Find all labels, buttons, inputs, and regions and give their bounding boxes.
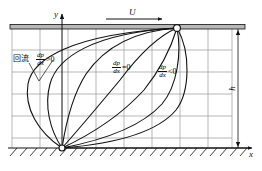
diagram-canvas: [0, 0, 262, 171]
dp-dx-fraction: dp dx: [36, 52, 45, 68]
lower-wall: [8, 148, 250, 156]
boundary-layer-diagram: y x U h 回流 dp dx >0 dp dx =0 dp dx <0: [0, 0, 262, 171]
dx-denominator: dx: [159, 71, 166, 79]
profile-backflow-outer: [27, 28, 177, 148]
x-axis-label: x: [249, 150, 253, 159]
wall-contact-node: [59, 145, 65, 151]
pressure-gradient-negative-annotation: dp dx <0: [158, 64, 177, 80]
dx-denominator: dx: [37, 59, 44, 67]
wall-hatching: [10, 148, 247, 156]
freestream-velocity-label: U: [129, 8, 136, 17]
profile-favorable-b: [62, 28, 179, 148]
upper-plate: [10, 25, 245, 30]
relation-symbol: =0: [121, 63, 131, 72]
pressure-gradient-positive-annotation: dp dx >0: [36, 52, 55, 68]
dp-numerator: dp: [37, 51, 44, 59]
dx-denominator: dx: [113, 67, 120, 75]
profile-backflow-inner: [48, 28, 177, 148]
dp-numerator: dp: [113, 59, 120, 67]
dp-dx-fraction: dp dx: [112, 60, 121, 76]
relation-symbol: >0: [45, 55, 55, 64]
profile-separating: [62, 28, 177, 148]
y-axis-label: y: [54, 10, 58, 19]
pressure-gradient-zero-annotation: dp dx =0: [112, 60, 131, 76]
plate-contact-node: [174, 25, 181, 32]
channel-height-label: h: [228, 86, 237, 91]
dp-dx-fraction: dp dx: [158, 64, 167, 80]
dp-numerator: dp: [159, 63, 166, 71]
relation-symbol: <0: [167, 67, 177, 76]
profile-favorable-a: [62, 28, 177, 148]
backflow-label: 回流: [13, 55, 28, 63]
velocity-profile-curves: [27, 28, 187, 148]
profile-zero-gradient: [62, 28, 177, 148]
grid-lines: [12, 28, 232, 148]
